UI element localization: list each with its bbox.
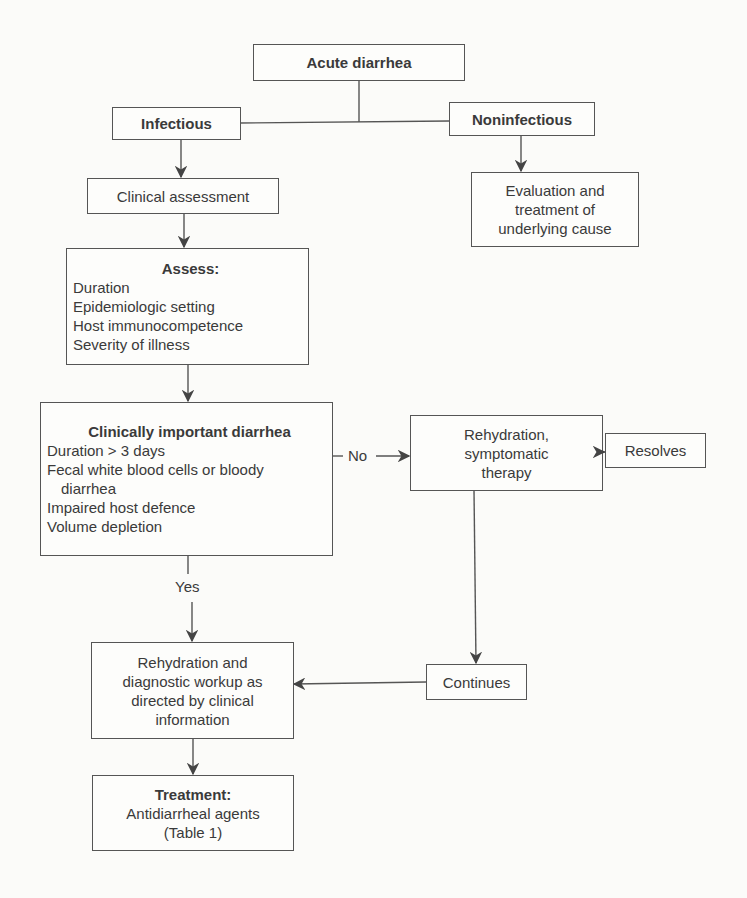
connector-symptomatic-to-resolves [0,0,747,898]
